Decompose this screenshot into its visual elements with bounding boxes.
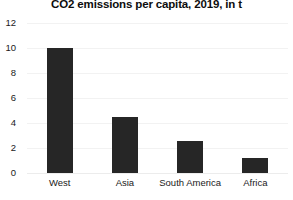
bar-slot — [223, 23, 288, 173]
x-axis-label: Asia — [116, 176, 134, 189]
y-axis-tick-label: 2 — [0, 143, 16, 153]
bars-layer — [27, 23, 288, 173]
bar — [47, 48, 73, 173]
x-axis-label: West — [49, 176, 70, 189]
y-axis-tick-label: 0 — [0, 168, 16, 178]
bar — [177, 141, 203, 174]
bar-slot — [92, 23, 157, 173]
bar-slot — [158, 23, 223, 173]
x-axis-label: Africa — [243, 176, 267, 189]
bar — [242, 158, 268, 173]
y-axis-tick-label: 12 — [0, 18, 16, 28]
y-axis-tick-label: 4 — [0, 118, 16, 128]
bar — [112, 117, 138, 173]
y-axis-tick-label: 10 — [0, 43, 16, 53]
bar-chart: CO2 emissions per capita, 2019, in t 024… — [0, 0, 293, 200]
y-axis-tick-label: 8 — [0, 68, 16, 78]
x-axis-label: South America — [159, 176, 221, 189]
x-axis-labels: WestAsiaSouth AmericaAfrica — [27, 176, 288, 196]
chart-title: CO2 emissions per capita, 2019, in t — [0, 0, 293, 11]
y-axis-tick-label: 6 — [0, 93, 16, 103]
gridline-0 — [27, 173, 288, 174]
bar-slot — [27, 23, 92, 173]
